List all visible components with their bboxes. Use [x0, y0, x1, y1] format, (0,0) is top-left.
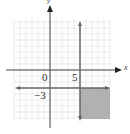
origin-label: 0	[42, 72, 48, 83]
x-axis-label: x	[124, 64, 128, 72]
line-arrow-left-icon	[15, 86, 20, 90]
tick-label-neg3: −3	[34, 90, 46, 101]
coordinate-plane	[0, 0, 130, 134]
y-axis-label: y	[47, 0, 50, 5]
tick-label-5: 5	[72, 72, 78, 83]
y-axis-arrow-icon	[47, 5, 53, 12]
x-axis-arrow-icon	[115, 67, 122, 73]
shaded-region	[80, 88, 110, 119]
